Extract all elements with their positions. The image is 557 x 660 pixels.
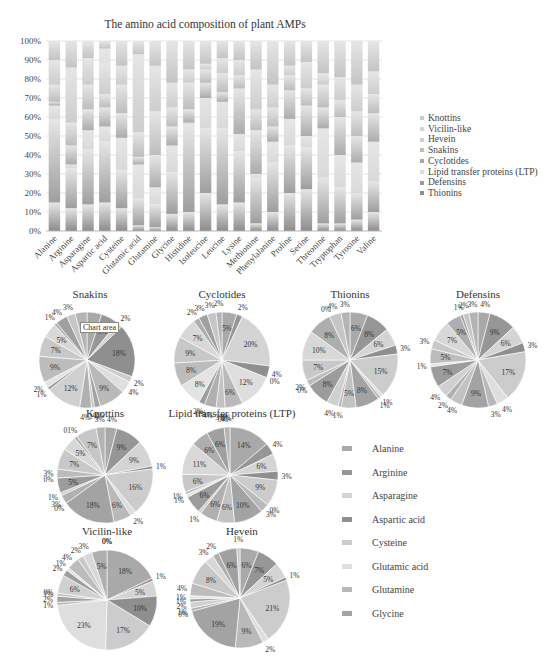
pie-data-label: 1% xyxy=(380,401,390,410)
pie-data-label: 1% xyxy=(189,515,199,524)
pie-data-label: 2% xyxy=(213,299,223,308)
pie-data-label: 10% xyxy=(133,604,147,613)
legend-swatch-icon xyxy=(342,564,352,569)
pie-data-label: 6% xyxy=(257,462,267,471)
pie-data-label: 19% xyxy=(211,620,225,629)
pie-data-label: 4% xyxy=(177,584,187,593)
pie-data-label: 3% xyxy=(63,303,73,312)
pie-data-label: 12% xyxy=(64,384,78,393)
pie-data-label: 2% xyxy=(206,542,216,551)
legend-swatch-icon xyxy=(342,611,352,616)
pie-data-label: 3% xyxy=(400,344,410,353)
pie-data-label: 3% xyxy=(491,410,501,419)
pie-data-label: 7% xyxy=(193,334,203,343)
legend-item: Aspartic acid xyxy=(342,508,428,532)
pie-data-label: 0% xyxy=(44,588,54,597)
legend-item: Glycine xyxy=(342,602,428,626)
legend-swatch-icon xyxy=(342,587,352,592)
pie-data-label: 3% xyxy=(419,337,429,346)
pie-data-label: 3% xyxy=(468,300,478,309)
pie-data-label: 12% xyxy=(239,378,253,387)
pie-data-label: 14% xyxy=(237,441,251,450)
legend-item: Cysteine xyxy=(342,531,428,555)
pie-title: Lipid transfer proteins (LTP) xyxy=(152,407,312,419)
pie-snakins: 5%6%2%18%2%4%9%2%1%4%12%1%2%9%7%5%1%4%3% xyxy=(34,303,144,422)
pie-data-label: 3% xyxy=(282,472,292,481)
pie-data-label: 5% xyxy=(344,389,354,398)
pie-data-label: 6% xyxy=(351,324,361,333)
pie-data-label: 9% xyxy=(471,389,481,398)
legend-label: Asparagine xyxy=(372,490,418,501)
pie-data-label: 01% xyxy=(63,426,77,435)
pie-data-label: 1% xyxy=(156,462,166,471)
legend-swatch-icon xyxy=(342,540,352,545)
pie-data-label: 4% xyxy=(324,409,334,418)
pie-data-label: 3% xyxy=(528,341,538,350)
pie-data-label: 2% xyxy=(34,385,44,394)
legend-item: Glutamic acid xyxy=(342,555,428,579)
pie-data-label: 1% xyxy=(417,362,427,371)
pie-data-label: 9% xyxy=(490,328,500,337)
pie-hevein: 6%7%5%1%21%2%9%19%0%1%2%1%1%4%8%3%2%6%1% xyxy=(176,535,299,654)
pie-vicilin-like: 18%1%5%10%17%23%1%2%1%0%6%2%1%4%2%3%5%0%… xyxy=(43,537,166,650)
legend-item: Asparagine xyxy=(342,484,428,508)
pie-data-label: 9% xyxy=(50,363,60,372)
pie-data-label: 9% xyxy=(185,349,195,358)
pie-data-label: 18% xyxy=(86,501,100,510)
pie-data-label: 8% xyxy=(206,576,216,585)
pie-data-label: 5% xyxy=(97,562,107,571)
pie-data-label: 5% xyxy=(263,575,273,584)
pie-data-label: 1% xyxy=(176,593,186,602)
pie-data-label: 8% xyxy=(357,386,367,395)
legend-item: Glutamine xyxy=(342,578,428,602)
pie-knottins: 4%9%9%1%16%2%6%18%0%3%1%5%0%3%7%5%01%7%3… xyxy=(43,415,166,526)
pie-data-label: 3% xyxy=(43,469,53,478)
pie-data-label: 18% xyxy=(118,567,132,576)
legend-label: Arginine xyxy=(372,467,407,478)
pie-data-label: 7% xyxy=(51,346,61,355)
pie-data-label: 2% xyxy=(238,303,248,312)
pie-data-label: 0% xyxy=(270,377,280,386)
pie-data-label: 5% xyxy=(222,324,232,333)
pie-data-label: 7% xyxy=(254,566,264,575)
pie-data-label: 4% xyxy=(129,388,139,397)
legend-swatch-icon xyxy=(342,517,352,522)
pie-thionins: 6%8%6%3%15%1%1%8%5%1%4%8%0%2%7%10%8%0%4%… xyxy=(295,300,410,421)
pie-data-label: 11% xyxy=(193,460,206,469)
legend-label: Aspartic acid xyxy=(372,514,425,525)
pie-data-label: 5% xyxy=(440,353,450,362)
pie-data-label: 2% xyxy=(265,645,275,654)
pie-data-label: 9% xyxy=(241,627,251,636)
legend-label: Alanine xyxy=(372,443,404,454)
pie-data-label: 8% xyxy=(324,331,334,340)
pie-data-label: 1% xyxy=(48,493,58,502)
pie-data-label: 6% xyxy=(193,477,203,486)
pie-data-label: 8% xyxy=(364,330,374,339)
pie-data-label: 5% xyxy=(456,328,466,337)
pie-data-label: 6% xyxy=(501,339,511,348)
pie-chart-legend: AlanineArginineAsparagineAspartic acidCy… xyxy=(342,437,428,625)
pie-title: Defensins xyxy=(398,288,557,300)
pie-data-label: 9% xyxy=(99,384,109,393)
pie-data-label: 1% xyxy=(173,492,183,501)
pie-data-label: 10% xyxy=(312,346,326,355)
pie-data-label: 15% xyxy=(374,367,388,376)
pie-data-label: 6% xyxy=(204,446,214,455)
legend-swatch-icon xyxy=(342,470,352,475)
pie-data-label: 6% xyxy=(241,561,251,570)
pie-cyclotides: 5%2%20%4%0%12%6%0%3%4%0%2%8%8%9%7%2%3%3%… xyxy=(174,299,282,421)
pie-data-label: 4% xyxy=(447,406,457,415)
pie-data-label: 6% xyxy=(112,501,122,510)
pie-data-label: 6% xyxy=(374,340,384,349)
pie-data-label: 1% xyxy=(289,571,299,580)
pie-data-label: 17% xyxy=(502,368,516,377)
chart-area-tooltip: Chart area xyxy=(80,322,119,333)
pie-data-label: 7% xyxy=(87,441,97,450)
pie-data-label: 2% xyxy=(120,314,130,323)
pie-data-label: 4% xyxy=(273,440,283,449)
pie-data-label: 3% xyxy=(266,510,276,519)
pie-data-label: 20% xyxy=(244,340,258,349)
pie-data-label: 10% xyxy=(236,501,250,510)
pie-data-label: 4% xyxy=(430,393,440,402)
pie-data-label: 3% xyxy=(195,304,205,313)
